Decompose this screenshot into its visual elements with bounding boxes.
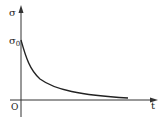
initial-value-label: σ0	[9, 35, 20, 48]
stress-relaxation-diagram: σ σ0 O t	[0, 0, 163, 124]
decay-curve	[21, 40, 128, 98]
x-axis-label: t	[151, 100, 155, 111]
y-axis-label: σ	[9, 7, 16, 18]
y-axis-arrow-icon	[19, 5, 24, 13]
origin-label: O	[11, 102, 18, 112]
x-axis	[10, 98, 158, 103]
